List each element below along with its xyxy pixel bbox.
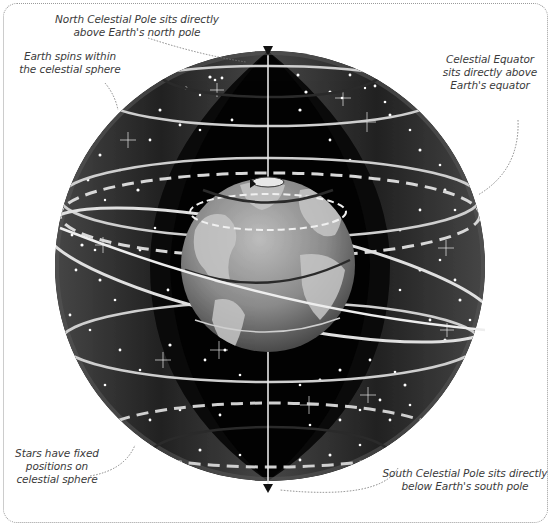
label-line: Celestial Equator — [430, 53, 550, 66]
south-celestial-pole-label: South Celestial Pole sits directly below… — [380, 467, 550, 493]
label-line: celestial sphere — [12, 473, 102, 486]
label-line: South Celestial Pole sits directly — [380, 467, 550, 480]
celestial-equator-label: Celestial Equator sits directly above Ea… — [430, 53, 550, 92]
north-celestial-pole-label: North Celestial Pole sits directly above… — [22, 13, 252, 39]
south-pole-arrow-icon — [263, 484, 273, 493]
label-line: Stars have fixed — [12, 447, 102, 460]
label-line: below Earth's south pole — [380, 480, 550, 493]
label-line: above Earth's north pole — [22, 26, 252, 39]
label-line: North Celestial Pole sits directly — [22, 13, 252, 26]
label-line: the celestial sphere — [10, 63, 130, 76]
label-line: Earth's equator — [430, 79, 550, 92]
earth-spins-label: Earth spins within the celestial sphere — [10, 50, 130, 76]
label-line: Earth spins within — [10, 50, 130, 63]
stars-fixed-label: Stars have fixed positions on celestial … — [12, 447, 102, 486]
label-line: sits directly above — [430, 66, 550, 79]
label-line: positions on — [12, 460, 102, 473]
